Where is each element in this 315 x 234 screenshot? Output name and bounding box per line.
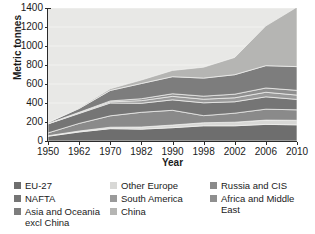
x-tick-mark xyxy=(48,142,49,145)
x-tick-mark xyxy=(173,142,174,145)
legend-column-3: Russia and CISAfrica and Middle East xyxy=(210,180,314,217)
legend-column-1: EU-27NAFTAAsia and Oceania excl China xyxy=(14,180,110,230)
legend-item-label: South America xyxy=(121,193,210,204)
legend-item[interactable]: Asia and Oceania excl China xyxy=(14,206,110,228)
y-tick-label: 800 xyxy=(26,60,43,70)
legend-item[interactable]: Russia and CIS xyxy=(210,180,314,191)
legend-item[interactable]: China xyxy=(110,206,210,217)
legend-item[interactable]: South America xyxy=(110,193,210,204)
x-tick-mark xyxy=(79,142,80,145)
legend-swatch-icon xyxy=(110,182,117,189)
legend-swatch-icon xyxy=(110,208,117,215)
x-tick-mark xyxy=(235,142,236,145)
y-tick-label: 0 xyxy=(37,136,43,146)
y-tick-label: 200 xyxy=(26,117,43,127)
legend-item-label: China xyxy=(121,206,210,217)
x-tick-label: 1982 xyxy=(124,146,158,157)
x-tick-label: 2002 xyxy=(218,146,252,157)
y-tick-label: 600 xyxy=(26,79,43,89)
chart-plot-block: Metric tonnes 1400120010008006004002000 … xyxy=(0,0,315,166)
x-tick-label: 2006 xyxy=(249,146,283,157)
y-axis-top-cap xyxy=(47,8,51,9)
y-tick-label: 1400 xyxy=(21,3,43,13)
legend-swatch-icon xyxy=(14,195,21,202)
legend-item[interactable]: EU-27 xyxy=(14,180,110,191)
legend-item[interactable]: Other Europe xyxy=(110,180,210,191)
legend-swatch-icon xyxy=(210,195,217,202)
x-tick-mark xyxy=(110,142,111,145)
x-tick-mark xyxy=(297,142,298,145)
y-tick-label: 1000 xyxy=(21,41,43,51)
legend-swatch-icon xyxy=(210,182,217,189)
x-tick-label: 1962 xyxy=(62,146,96,157)
legend-swatch-icon xyxy=(110,195,117,202)
x-tick-label: 2010 xyxy=(280,146,314,157)
x-tick-mark xyxy=(141,142,142,145)
legend-item-label: EU-27 xyxy=(25,180,110,191)
x-tick-label: 1998 xyxy=(187,146,221,157)
legend-item[interactable]: NAFTA xyxy=(14,193,110,204)
plot-area xyxy=(48,8,297,141)
x-tick-mark xyxy=(266,142,267,145)
legend-item-label: Russia and CIS xyxy=(221,180,314,191)
chart-legend: EU-27NAFTAAsia and Oceania excl China Ot… xyxy=(14,180,310,232)
stacked-area-chart-figure: Metric tonnes 1400120010008006004002000 … xyxy=(0,0,315,234)
x-tick-label: 1990 xyxy=(156,146,190,157)
x-tick-label: 1970 xyxy=(93,146,127,157)
legend-column-2: Other EuropeSouth AmericaChina xyxy=(110,180,210,219)
x-axis-title: Year xyxy=(48,157,297,168)
legend-item-label: Asia and Oceania excl China xyxy=(25,206,110,228)
area-chart-svg xyxy=(48,8,297,141)
legend-swatch-icon xyxy=(14,182,21,189)
y-tick-label: 400 xyxy=(26,98,43,108)
legend-swatch-icon xyxy=(14,208,21,215)
y-axis-tick-labels: 1400120010008006004002000 xyxy=(0,0,46,145)
legend-item[interactable]: Africa and Middle East xyxy=(210,193,314,215)
x-tick-mark xyxy=(204,142,205,145)
x-tick-label: 1950 xyxy=(31,146,65,157)
y-tick-label: 1200 xyxy=(21,22,43,32)
legend-item-label: Other Europe xyxy=(121,180,210,191)
y-axis-line xyxy=(47,8,48,142)
legend-item-label: NAFTA xyxy=(25,193,110,204)
legend-item-label: Africa and Middle East xyxy=(221,193,314,215)
